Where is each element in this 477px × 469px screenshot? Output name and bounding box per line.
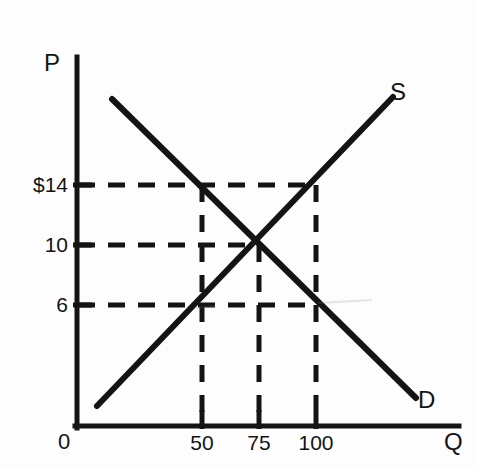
demand-curve bbox=[112, 99, 416, 398]
dashed-horizontal-lines bbox=[78, 185, 318, 305]
supply-curve bbox=[97, 97, 393, 406]
x-axis-title: Q bbox=[444, 428, 463, 456]
artifact-streak-right bbox=[318, 300, 372, 303]
y-axis-title: P bbox=[44, 49, 60, 77]
x-tick-label-100: 100 bbox=[286, 431, 346, 455]
x-tick-label-75: 75 bbox=[229, 431, 289, 455]
supply-demand-chart: P Q 0 S D $14 10 6 50 75 100 bbox=[0, 0, 477, 469]
origin-label: 0 bbox=[58, 429, 70, 455]
y-tick-label-6: 6 bbox=[8, 293, 68, 317]
y-tick-label-10: 10 bbox=[8, 233, 68, 257]
demand-curve-label: D bbox=[418, 386, 435, 414]
x-tick-label-50: 50 bbox=[172, 431, 232, 455]
scan-artifacts bbox=[196, 300, 372, 308]
supply-curve-label: S bbox=[390, 78, 406, 106]
y-tick-label-14: $14 bbox=[8, 173, 68, 197]
chart-canvas bbox=[0, 0, 477, 469]
